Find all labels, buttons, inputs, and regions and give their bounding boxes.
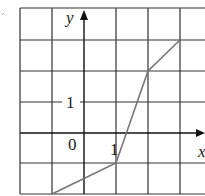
origin-label: 0	[68, 135, 77, 154]
function-graph: y x 0 1 1	[0, 0, 205, 196]
y-axis-label: y	[64, 8, 74, 27]
x-tick-label-1: 1	[110, 140, 119, 159]
grid	[20, 8, 205, 194]
x-axis-arrow-icon	[196, 129, 205, 137]
x-axis-label: x	[197, 142, 205, 161]
stray-mark	[2, 13, 4, 15]
y-axis-arrow-icon	[80, 10, 88, 20]
axes	[20, 16, 200, 194]
y-tick-label-1: 1	[66, 93, 75, 112]
